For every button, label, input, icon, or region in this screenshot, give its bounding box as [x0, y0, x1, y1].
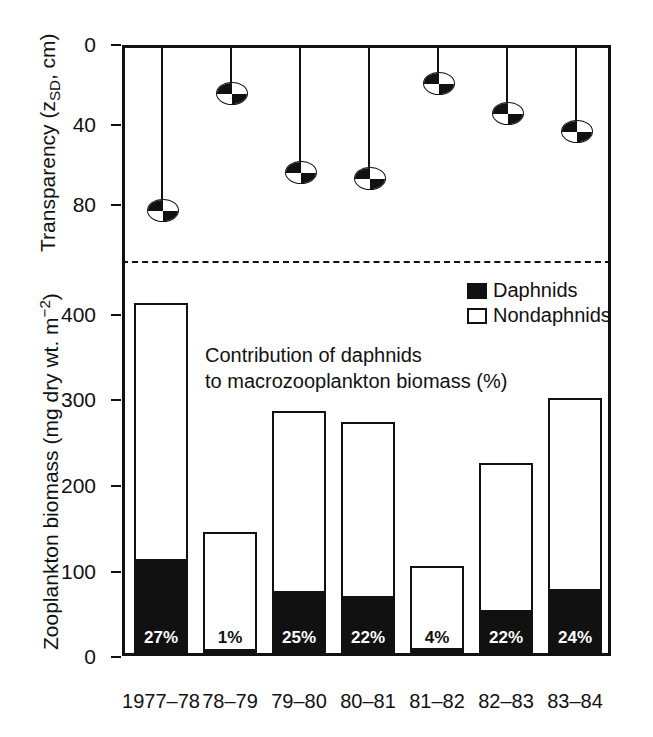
transparency-axis-right — [608, 45, 611, 262]
secchi-quadrant-lower-right — [232, 94, 247, 105]
secchi-marker-78-79[interactable] — [216, 82, 248, 105]
bar-segment-daphnids — [203, 649, 257, 653]
biomass-tick-label-300: 300 — [36, 388, 96, 412]
biomass-axis-title-post: ) — [39, 293, 62, 300]
bar-segment-daphnids — [410, 648, 464, 653]
secchi-marker-81-82[interactable] — [423, 72, 455, 95]
biomass-bar-1977-78[interactable]: 27% — [134, 303, 188, 653]
bar-percent-label-83-84: 24% — [548, 628, 602, 648]
legend-swatch-daphnids-icon — [467, 283, 487, 299]
transparency-axis-title: Transparency (zSD, cm) — [36, 33, 63, 252]
secchi-quadrant-lower-right — [508, 114, 523, 125]
secchi-marker-1977-78[interactable] — [147, 199, 179, 222]
transparency-axis-title-sub: SD — [46, 80, 63, 101]
secchi-quadrant-upper-left — [355, 168, 370, 179]
legend-item-nondaphnids[interactable]: Nondaphnids — [467, 303, 611, 328]
biomass-bar-83-84[interactable]: 24% — [548, 398, 602, 653]
bar-percent-label-81-82: 4% — [410, 628, 464, 648]
biomass-tick-mark-200 — [111, 485, 121, 487]
transparency-tick-label-40: 40 — [52, 113, 96, 137]
secchi-stem-83-84 — [575, 45, 577, 131]
biomass-bar-78-79[interactable]: 1% — [203, 532, 257, 653]
bar-percent-label-78-79: 1% — [203, 628, 257, 648]
biomass-axis-title: Zooplankton biomass (mg dry wt. m−2) — [36, 293, 63, 650]
biomass-axis-left — [122, 262, 125, 655]
biomass-tick-label-400: 400 — [36, 303, 96, 327]
transparency-plot-area — [122, 45, 611, 262]
secchi-quadrant-upper-left — [493, 103, 508, 114]
secchi-marker-83-84[interactable] — [561, 120, 593, 143]
secchi-quadrant-upper-left — [562, 121, 577, 132]
x-tick-label-83-84: 83–84 — [525, 690, 625, 713]
legend-label-nondaphnids: Nondaphnids — [493, 303, 611, 328]
transparency-tick-mark-40 — [111, 124, 121, 126]
transparency-tick-mark-0 — [111, 44, 121, 46]
biomass-tick-label-200: 200 — [36, 474, 96, 498]
biomass-tick-mark-300 — [111, 399, 121, 401]
bar-percent-label-79-80: 25% — [272, 628, 326, 648]
secchi-quadrant-upper-left — [217, 83, 232, 94]
secchi-quadrant-upper-left — [286, 162, 301, 173]
transparency-tick-mark-80 — [111, 204, 121, 206]
transparency-axis-top — [122, 45, 611, 48]
secchi-quadrant-upper-left — [148, 200, 163, 211]
secchi-quadrant-upper-left — [424, 73, 439, 84]
biomass-tick-mark-100 — [111, 571, 121, 573]
secchi-quadrant-lower-right — [301, 173, 316, 184]
legend-swatch-nondaphnids-icon — [467, 308, 487, 324]
secchi-marker-82-83[interactable] — [492, 102, 524, 125]
secchi-quadrant-lower-right — [370, 179, 385, 190]
secchi-marker-79-80[interactable] — [285, 161, 317, 184]
secchi-marker-80-81[interactable] — [354, 167, 386, 190]
biomass-tick-mark-0 — [111, 656, 121, 658]
transparency-tick-label-0: 0 — [52, 33, 96, 57]
secchi-stem-80-81 — [368, 45, 370, 178]
figure-canvas: Transparency (zSD, cm) 0 40 80 — [0, 0, 653, 737]
biomass-bar-82-83[interactable]: 22% — [479, 463, 533, 653]
secchi-stem-79-80 — [299, 45, 301, 172]
secchi-quadrant-lower-right — [439, 84, 454, 95]
biomass-bar-81-82[interactable]: 4% — [410, 566, 464, 653]
biomass-tick-mark-400 — [111, 314, 121, 316]
biomass-tick-label-0: 0 — [36, 645, 96, 669]
biomass-axis-bottom — [122, 653, 611, 656]
bar-percent-label-1977-78: 27% — [134, 628, 188, 648]
secchi-quadrant-lower-right — [163, 211, 178, 222]
secchi-quadrant-lower-right — [577, 132, 592, 143]
transparency-tick-label-80: 80 — [52, 193, 96, 217]
biomass-tick-label-100: 100 — [36, 560, 96, 584]
chart-annotation: Contribution of daphnids to macrozooplan… — [205, 342, 507, 394]
secchi-stem-1977-78 — [161, 45, 163, 210]
legend-label-daphnids: Daphnids — [493, 278, 578, 303]
legend-item-daphnids[interactable]: Daphnids — [467, 278, 611, 303]
biomass-bar-79-80[interactable]: 25% — [272, 411, 326, 653]
legend: Daphnids Nondaphnids — [467, 278, 611, 328]
bar-percent-label-80-81: 22% — [341, 628, 395, 648]
bar-percent-label-82-83: 22% — [479, 628, 533, 648]
biomass-bar-80-81[interactable]: 22% — [341, 422, 395, 653]
transparency-axis-left — [122, 45, 125, 262]
